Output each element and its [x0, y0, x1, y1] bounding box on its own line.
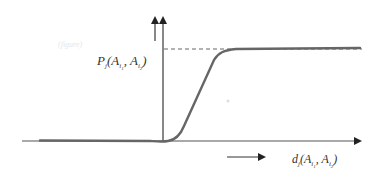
y-label-arg1: A: [111, 53, 119, 68]
y-label-arg2-sub2: 2: [140, 66, 143, 71]
x-label-arg2: A: [322, 152, 329, 166]
diagram-canvas: [0, 0, 391, 177]
x-label-arg1-sub2: 1: [313, 164, 316, 169]
sigmoid-curve: [40, 48, 360, 142]
y-label-arg1-sub2: 1: [121, 66, 124, 71]
x-axis-label: dj(Ai1, Ai2): [292, 152, 337, 169]
watermark-text: (figure): [58, 40, 82, 49]
y-axis-label: Pj(Ai1, Ai2): [97, 53, 147, 71]
y-label-main: P: [97, 53, 105, 68]
y-label-sub: j: [105, 62, 107, 70]
x-label-arg2-sub2: 2: [331, 164, 334, 169]
y-label-arg2: A: [130, 53, 138, 68]
faint-dot: [227, 100, 230, 103]
x-label-sub: j: [298, 160, 300, 168]
